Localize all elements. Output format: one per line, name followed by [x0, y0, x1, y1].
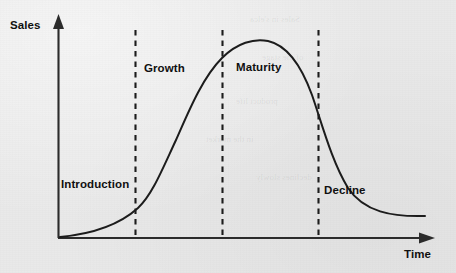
product-life-cycle-figure: Sales in s'elca of the stage product lif… [0, 0, 456, 273]
x-axis-label: Time [404, 248, 431, 260]
y-axis-label: Sales [10, 19, 41, 31]
y-axis [53, 14, 64, 238]
x-axis [58, 232, 435, 243]
stage-label-maturity: Maturity [236, 61, 282, 73]
plot-canvas [0, 0, 456, 273]
stage-label-introduction: Introduction [61, 178, 129, 190]
stage-label-growth: Growth [144, 62, 185, 74]
stage-label-decline: Decline [324, 184, 366, 196]
